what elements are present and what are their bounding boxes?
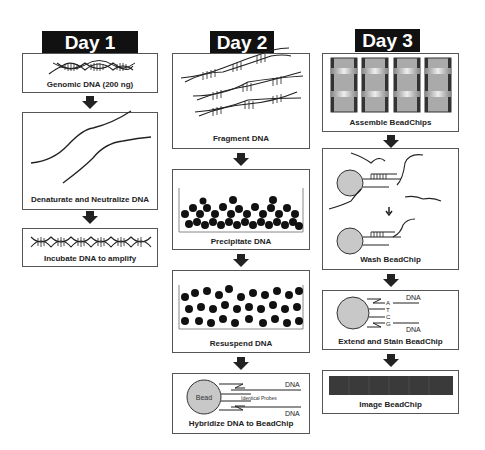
step-caption: Assemble BeadChips bbox=[323, 118, 458, 127]
step-fragment: Fragment DNA bbox=[172, 53, 310, 149]
dna-top-label: DNA bbox=[406, 294, 421, 301]
resuspend-icon bbox=[173, 271, 311, 337]
step-caption: Precipitate DNA bbox=[173, 237, 309, 246]
dna-helix-long-icon bbox=[23, 229, 159, 257]
arrow-down-icon bbox=[233, 357, 249, 370]
fragmented-dna-icon bbox=[173, 54, 311, 134]
dna-bottom-label: DNA bbox=[285, 410, 300, 417]
arrow-down-icon bbox=[82, 96, 98, 109]
dna-bottom-label: DNA bbox=[406, 326, 421, 333]
single-strand-dna-icon bbox=[23, 113, 159, 193]
image-chip-icon bbox=[323, 371, 460, 401]
step-precipitate: Precipitate DNA bbox=[172, 169, 310, 250]
base-g: G bbox=[386, 321, 391, 327]
step-caption: Incubate DNA to amplify bbox=[23, 254, 157, 263]
beadchip-assembly-icon bbox=[323, 54, 460, 116]
bead-label: Bead bbox=[196, 394, 212, 401]
step-hybridize: Bead DNA Identical Probes DNA Hybridize … bbox=[172, 373, 310, 434]
dna-top-label: DNA bbox=[285, 381, 300, 388]
step-assemble: Assemble BeadChips bbox=[322, 53, 459, 132]
step-extend-stain: A T C G DNA DNA Extend and Stain BeadChi… bbox=[322, 290, 459, 350]
step-image: Image BeadChip bbox=[322, 370, 459, 414]
step-caption: Hybridize DNA to BeadChip bbox=[173, 419, 309, 428]
base-c: C bbox=[386, 314, 391, 320]
arrow-down-icon bbox=[82, 211, 98, 224]
precipitate-icon bbox=[173, 170, 311, 234]
base-t: T bbox=[386, 307, 390, 313]
bead-hybridize-icon: Bead DNA Identical Probes DNA bbox=[173, 374, 311, 418]
extend-stain-icon: A T C G DNA DNA bbox=[323, 291, 460, 335]
step-caption: Fragment DNA bbox=[173, 134, 309, 143]
step-caption: Image BeadChip bbox=[323, 400, 458, 409]
step-caption: Denaturate and Neutralize DNA bbox=[23, 195, 157, 204]
arrow-down-icon bbox=[383, 274, 399, 287]
step-caption: Extend and Stain BeadChip bbox=[323, 337, 458, 346]
wash-bead-icon bbox=[323, 149, 460, 254]
step-resuspend: Resuspend DNA bbox=[172, 270, 310, 353]
identical-probes-label: Identical Probes bbox=[241, 395, 277, 401]
arrow-down-icon bbox=[233, 254, 249, 267]
arrow-down-icon bbox=[233, 153, 249, 166]
arrow-down-icon bbox=[383, 135, 399, 148]
step-wash: Wash BeadChip bbox=[322, 148, 459, 270]
day1-header: Day 1 bbox=[42, 31, 138, 54]
step-denaturate: Denaturate and Neutralize DNA bbox=[22, 112, 158, 210]
base-a: A bbox=[386, 300, 390, 306]
step-caption: Genomic DNA (200 ng) bbox=[23, 80, 157, 89]
step-caption: Resuspend DNA bbox=[173, 339, 309, 348]
step-genomic-dna: Genomic DNA (200 ng) bbox=[22, 53, 158, 93]
day3-header: Day 3 bbox=[355, 29, 420, 52]
arrow-down-icon bbox=[383, 354, 399, 367]
step-incubate: Incubate DNA to amplify bbox=[22, 228, 158, 267]
step-caption: Wash BeadChip bbox=[323, 255, 458, 264]
day2-header: Day 2 bbox=[210, 31, 274, 54]
